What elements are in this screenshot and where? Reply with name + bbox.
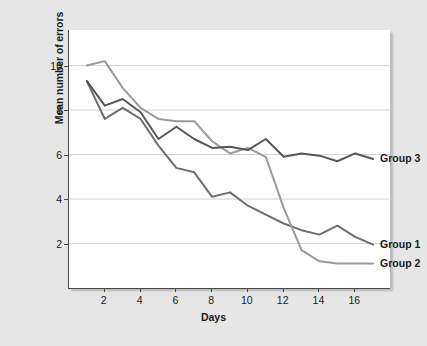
x-tick-label: 16 — [348, 294, 360, 306]
series-line-group-2 — [87, 61, 373, 263]
x-tick-mark — [318, 288, 319, 292]
x-axis-line — [68, 288, 390, 289]
chart-figure: 246810 Mean number of errors 24681012141… — [0, 0, 427, 346]
series-label-group-3: Group 3 — [380, 152, 420, 164]
plot-svg — [69, 30, 391, 288]
y-tick-mark — [64, 199, 68, 200]
x-tick-mark — [104, 288, 105, 292]
series-line-group-1 — [87, 81, 373, 244]
gridlines — [69, 66, 391, 244]
x-tick-label: 6 — [172, 294, 178, 306]
y-axis-title: Mean number of errors — [53, 0, 65, 148]
x-tick-mark — [175, 288, 176, 292]
series-lines — [87, 61, 373, 263]
x-tick-mark — [354, 288, 355, 292]
x-tick-mark — [247, 288, 248, 292]
x-tick-mark — [211, 288, 212, 292]
x-tick-label: 10 — [241, 294, 253, 306]
y-tick-label: 2 — [42, 238, 62, 250]
x-axis-title: Days — [0, 311, 427, 323]
x-tick-label: 12 — [277, 294, 289, 306]
x-tick-mark — [283, 288, 284, 292]
y-tick-mark — [64, 155, 68, 156]
series-label-group-2: Group 2 — [380, 257, 420, 269]
y-tick-label: 6 — [42, 149, 62, 161]
plot-panel — [68, 30, 390, 288]
y-tick-mark — [64, 244, 68, 245]
y-tick-mark — [64, 110, 68, 111]
x-tick-label: 8 — [208, 294, 214, 306]
x-tick-label: 2 — [101, 294, 107, 306]
x-tick-label: 4 — [137, 294, 143, 306]
x-tick-mark — [140, 288, 141, 292]
y-tick-label: 4 — [42, 193, 62, 205]
y-tick-mark — [64, 66, 68, 67]
x-tick-label: 14 — [313, 294, 325, 306]
series-label-group-1: Group 1 — [380, 238, 420, 250]
series-line-group-3 — [87, 81, 373, 161]
